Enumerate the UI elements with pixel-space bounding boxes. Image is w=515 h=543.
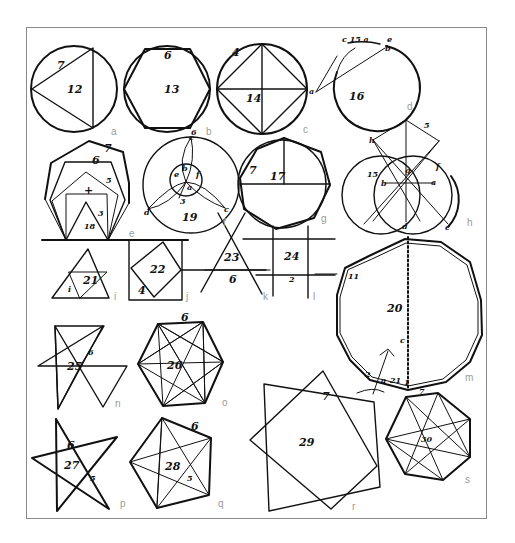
fig-g-number: 17	[270, 171, 285, 182]
fig-i-inner: i	[68, 285, 71, 293]
fig-f-label-3: 3	[180, 197, 186, 205]
fig-e-label-4: +	[84, 185, 93, 196]
fig-e-label-7: 7	[104, 143, 112, 154]
fig-h-number: 15	[367, 170, 378, 178]
fig-a-number: 12	[67, 84, 82, 95]
panel-letter-e: e	[129, 229, 135, 239]
panel-letter-a: a	[111, 127, 117, 137]
figure-e	[42, 141, 188, 240]
fig-f-point-d: d	[144, 208, 150, 216]
fig-f-number: 19	[182, 212, 197, 223]
fig-s-number: 30	[421, 435, 432, 443]
fig-f-point-a: a	[187, 183, 192, 191]
panel-letter-g: g	[321, 214, 327, 224]
figure-i	[52, 249, 109, 298]
fig-k-number: 23	[224, 252, 239, 263]
fig-s-side-label: 7	[419, 387, 425, 395]
fig-f-point-e: e	[174, 170, 179, 178]
fig-d-point-b: b	[385, 44, 391, 52]
fig-f-point-c: c	[224, 205, 229, 213]
panel-letter-i: i	[114, 292, 116, 302]
fig-m-bottom-21: 21	[390, 376, 401, 384]
figure-m	[315, 237, 482, 394]
fig-c-point-a: a	[309, 87, 314, 95]
fig-m-side-label: 11	[348, 272, 359, 280]
fig-a-side-label: 7	[57, 60, 65, 71]
fig-i-number: 21	[83, 275, 98, 286]
fig-l-side-label: 2	[289, 275, 295, 283]
fig-c-number: 14	[246, 93, 261, 104]
panel-letter-r: r	[352, 502, 355, 512]
fig-e-number: 18	[84, 222, 95, 230]
fig-k-side-label: 6	[229, 274, 237, 285]
panel-letter-b: b	[206, 127, 212, 137]
figure-r	[250, 371, 384, 511]
diagram-plate: 7 12 a 6 13 6 b 4 14 a c c 15 a e b 16 d…	[0, 0, 515, 543]
fig-q-label-5: 5	[187, 474, 193, 482]
fig-m-bottom-1: 1	[404, 378, 410, 386]
fig-o-side-label: 6	[181, 312, 189, 323]
figure-d	[316, 42, 420, 131]
panel-letter-l: l	[313, 292, 315, 302]
fig-h-label-5: 5	[424, 121, 430, 129]
fig-m-marker: c	[400, 336, 405, 344]
fig-h-point-c: c	[445, 223, 450, 231]
panel-letter-k: k	[263, 292, 268, 302]
fig-n-side-label: 6	[88, 348, 94, 356]
fig-d-point-e: e	[387, 35, 392, 43]
fig-q-label-6: 6	[191, 421, 199, 432]
figure-h	[342, 120, 459, 234]
fig-d-arc-label: c 15 a	[342, 35, 369, 43]
fig-h-point-d: d	[402, 222, 408, 230]
fig-h-point-a: a	[431, 178, 436, 186]
fig-h-point-g: g	[405, 166, 411, 174]
fig-l-number: 24	[284, 251, 299, 262]
fig-o-number: 26	[167, 360, 182, 371]
panel-letter-s: s	[465, 475, 470, 485]
fig-n-number: 25	[67, 361, 82, 372]
fig-f-point-c-top: c	[189, 133, 194, 141]
fig-j-side-label: 4	[138, 285, 146, 296]
fig-q-number: 28	[165, 461, 180, 472]
fig-j-number: 22	[150, 264, 165, 275]
fig-p-number: 27	[64, 460, 79, 471]
figure-g	[238, 138, 330, 229]
panel-letter-q: q	[218, 499, 224, 509]
fig-p-label-6: 6	[67, 440, 75, 451]
panel-letter-f: f	[223, 218, 226, 228]
panel-letter-c: c	[303, 125, 308, 135]
panel-letter-m: m	[465, 373, 473, 383]
fig-h-point-h: h	[369, 136, 375, 144]
panel-letter-o: o	[222, 398, 228, 408]
fig-g-side-label: 7	[249, 165, 257, 176]
figure-n	[38, 326, 127, 409]
fig-e-label-6: 6	[92, 155, 100, 166]
fig-r-number: 29	[299, 437, 314, 448]
fig-p-label-5: 5	[90, 474, 96, 482]
fig-f-point-f: f	[196, 170, 199, 178]
fig-m-number: 20	[387, 303, 402, 314]
fig-m-bottom-a: a	[381, 376, 386, 384]
fig-b-number: 13	[164, 84, 179, 95]
fig-h-point-f: f	[436, 162, 439, 170]
fig-h-point-b: b	[381, 179, 387, 187]
fig-m-bottom-2: 2	[365, 370, 371, 378]
fig-e-label-3: 3	[98, 209, 104, 217]
fig-d-number: 16	[349, 91, 364, 102]
fig-r-side-label: 7	[322, 391, 330, 402]
figure-c	[217, 44, 307, 134]
panel-letter-d: d	[407, 102, 413, 112]
panel-letter-n: n	[115, 399, 121, 409]
panel-letter-p: p	[120, 499, 126, 509]
fig-e-label-5: 5	[106, 176, 112, 184]
fig-f-point-b: b	[182, 164, 188, 172]
fig-b-side-label: 6	[164, 50, 172, 61]
panel-letter-j: j	[186, 292, 188, 302]
fig-c-side-label: 4	[232, 47, 240, 58]
panel-letter-h: h	[467, 218, 473, 228]
